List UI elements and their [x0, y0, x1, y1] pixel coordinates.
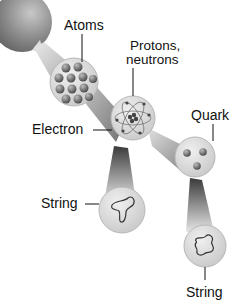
label-atoms: Atoms — [64, 18, 104, 33]
beam-quark-to-string — [186, 178, 214, 232]
label-electron: Electron — [32, 122, 83, 137]
atoms-circle — [50, 58, 98, 106]
string-circle-left — [99, 187, 145, 233]
label-string-bottom: String — [186, 285, 223, 300]
nucleus-circle — [111, 96, 155, 140]
label-quark: Quark — [191, 108, 229, 123]
label-string-left: String — [41, 196, 78, 211]
label-neutrons: neutrons — [126, 52, 179, 67]
matter-scale-diagram — [0, 0, 242, 308]
quark-circle — [175, 137, 215, 177]
string-circle-bottom — [184, 225, 226, 267]
label-protons: Protons, — [130, 38, 180, 53]
